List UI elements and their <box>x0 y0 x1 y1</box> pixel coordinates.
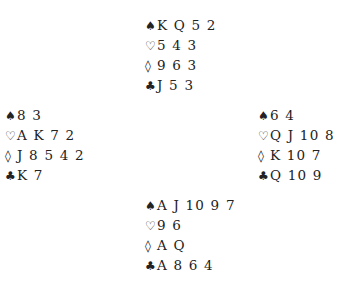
west-diamonds: ◊J 8 5 4 2 <box>5 145 85 165</box>
south-clubs-cards: A 8 6 4 <box>157 257 214 273</box>
heart-icon: ♡ <box>5 126 17 146</box>
south-spades: ♠A J 10 9 7 <box>145 195 236 215</box>
west-hearts-cards: A K 7 2 <box>17 127 75 143</box>
north-clubs: ♣J 5 3 <box>145 75 217 95</box>
club-icon: ♣ <box>145 256 157 276</box>
heart-icon: ♡ <box>145 216 157 236</box>
west-diamonds-cards: J 8 5 4 2 <box>17 147 85 163</box>
east-diamonds-cards: K 10 7 <box>270 147 322 163</box>
east-spades: ♠6 4 <box>258 105 335 125</box>
north-clubs-cards: J 5 3 <box>157 77 194 93</box>
south-clubs: ♣A 8 6 4 <box>145 255 236 275</box>
spade-icon: ♠ <box>145 196 157 216</box>
spade-icon: ♠ <box>145 16 157 36</box>
diamond-icon: ◊ <box>145 56 157 76</box>
west-clubs: ♣K 7 <box>5 165 85 185</box>
diamond-icon: ◊ <box>145 236 157 256</box>
east-spades-cards: 6 4 <box>270 107 295 123</box>
south-hearts: ♡9 6 <box>145 215 236 235</box>
north-diamonds-cards: 9 6 3 <box>157 57 197 73</box>
north-hearts-cards: 5 4 3 <box>157 37 197 53</box>
west-spades: ♠8 3 <box>5 105 85 125</box>
south-diamonds: ◊A Q <box>145 235 236 255</box>
north-spades: ♠K Q 5 2 <box>145 15 217 35</box>
spade-icon: ♠ <box>5 106 17 126</box>
diamond-icon: ◊ <box>5 146 17 166</box>
club-icon: ♣ <box>5 166 17 186</box>
diamond-icon: ◊ <box>258 146 270 166</box>
spade-icon: ♠ <box>258 106 270 126</box>
west-spades-cards: 8 3 <box>17 107 42 123</box>
heart-icon: ♡ <box>145 36 157 56</box>
club-icon: ♣ <box>145 76 157 96</box>
south-hand: ♠A J 10 9 7 ♡9 6 ◊A Q ♣A 8 6 4 <box>145 195 236 275</box>
east-clubs-cards: Q 10 9 <box>270 167 323 183</box>
east-hearts-cards: Q J 10 8 <box>270 127 335 143</box>
heart-icon: ♡ <box>258 126 270 146</box>
north-hand: ♠K Q 5 2 ♡5 4 3 ◊9 6 3 ♣J 5 3 <box>145 15 217 95</box>
south-hearts-cards: 9 6 <box>157 217 182 233</box>
west-hand: ♠8 3 ♡A K 7 2 ◊J 8 5 4 2 ♣K 7 <box>5 105 85 185</box>
north-hearts: ♡5 4 3 <box>145 35 217 55</box>
east-hand: ♠6 4 ♡Q J 10 8 ◊K 10 7 ♣Q 10 9 <box>258 105 335 185</box>
north-spades-cards: K Q 5 2 <box>157 17 217 33</box>
north-diamonds: ◊9 6 3 <box>145 55 217 75</box>
east-clubs: ♣Q 10 9 <box>258 165 335 185</box>
south-spades-cards: A J 10 9 7 <box>157 197 236 213</box>
south-diamonds-cards: A Q <box>157 237 186 253</box>
west-clubs-cards: K 7 <box>17 167 44 183</box>
east-hearts: ♡Q J 10 8 <box>258 125 335 145</box>
club-icon: ♣ <box>258 166 270 186</box>
east-diamonds: ◊K 10 7 <box>258 145 335 165</box>
west-hearts: ♡A K 7 2 <box>5 125 85 145</box>
